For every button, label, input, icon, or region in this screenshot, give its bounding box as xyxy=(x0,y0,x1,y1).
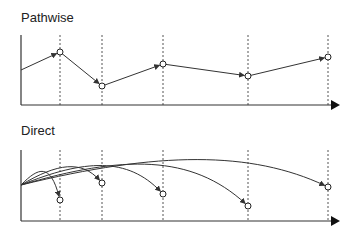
direct-arrow xyxy=(21,160,325,186)
state-node-icon xyxy=(160,61,166,67)
state-node-icon xyxy=(245,73,251,79)
transition-arrow xyxy=(60,52,99,84)
transition-arrow xyxy=(248,58,325,76)
state-node-icon xyxy=(57,197,63,203)
direct-arrow xyxy=(21,166,161,192)
transition-arrow xyxy=(102,65,160,86)
state-node-icon xyxy=(160,191,166,197)
state-node-icon xyxy=(325,184,331,190)
x-axis-arrow-icon xyxy=(331,100,340,110)
state-node-icon xyxy=(245,203,251,209)
state-node-icon xyxy=(99,83,105,89)
diagram-canvas xyxy=(0,0,360,233)
transition-arrow xyxy=(163,64,245,76)
state-node-icon xyxy=(99,180,105,186)
transition-arrow xyxy=(21,53,57,70)
x-axis-arrow-icon xyxy=(331,216,340,226)
state-node-icon xyxy=(325,54,331,60)
state-node-icon xyxy=(57,49,63,55)
